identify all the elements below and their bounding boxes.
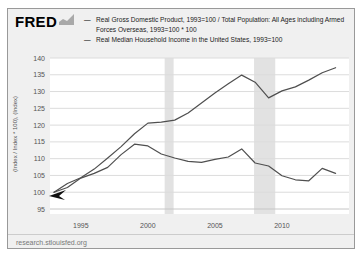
y-tick-label: 105 [33,172,45,179]
fred-logo-text: FRED [15,14,57,29]
plot-background [50,58,349,214]
x-tick-label: 2005 [207,222,223,229]
x-tick-label: 1995 [73,222,89,229]
x-tick-label: 2010 [274,222,290,229]
chart-legend: — Real Gross Domestic Product, 1993=100 … [84,15,348,45]
legend-entry-income: — Real Median Household Income in the Un… [84,35,348,45]
y-tick-label: 140 [33,55,45,62]
y-tick-label: 110 [34,155,45,162]
fred-logo[interactable]: FRED [15,14,74,29]
recession-band [254,58,275,214]
y-tick-label: 115 [34,138,45,145]
legend-label-gdp: Real Gross Domestic Product, 1993=100 / … [96,15,348,35]
recession-band [165,58,174,214]
y-tick-label: 135 [33,71,45,78]
chart-canvas: 9510010511011512012513013514019952000200… [8,9,355,249]
y-axis-title: (Index / Index * 100), (Index) [12,96,18,172]
y-tick-label: 130 [33,88,45,95]
footer-source-link[interactable]: research.stlouisfed.org [16,239,87,246]
legend-entry-gdp: — Real Gross Domestic Product, 1993=100 … [84,15,348,35]
y-tick-label: 100 [33,189,45,196]
x-tick-label: 2000 [140,222,156,229]
widget-footer: research.stlouisfed.org [8,234,354,235]
fred-chart-widget: 9510010511011512012513013514019952000200… [7,8,355,249]
y-tick-label: 125 [33,105,45,112]
fred-graph-icon [59,14,74,25]
legend-line-swatch-gdp: — [84,15,96,25]
y-tick-label: 95 [37,206,45,213]
legend-line-swatch-income: — [84,35,96,45]
legend-label-income: Real Median Household Income in the Unit… [96,35,348,45]
y-tick-label: 120 [33,122,45,129]
